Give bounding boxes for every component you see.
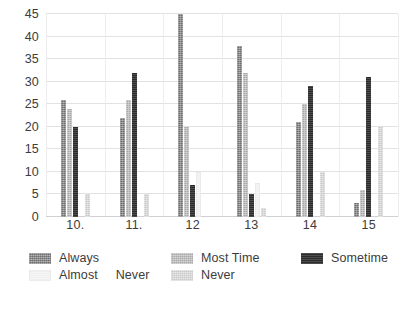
bar[interactable] [190,185,195,217]
bar[interactable] [261,208,266,217]
legend-row-2: Almost NeverNever [0,267,408,284]
x-axis: 10.11.12131415 [46,219,398,232]
legend-label: Most Time [201,252,260,265]
bar[interactable] [296,122,301,217]
legend-item[interactable]: Sometime [301,250,388,267]
legend-swatch-icon [29,270,51,281]
legend-row-1: AlwaysMost TimeSometime [0,250,408,267]
legend-swatch-icon [171,253,193,264]
bar[interactable] [132,73,137,217]
y-axis: 051015202530354045 [0,0,44,240]
bar[interactable] [61,100,66,217]
bar[interactable] [249,194,254,217]
plot-wrapper: 051015202530354045 10.11.12131415 [0,0,408,240]
bar[interactable] [73,127,78,217]
legend-item[interactable]: Most Time [171,250,301,267]
bar-groups [46,14,398,217]
y-axis-tick-label: 40 [25,30,39,43]
bar-group [46,14,105,217]
bar[interactable] [255,183,260,217]
bar[interactable] [237,46,242,217]
legend-swatch-icon [171,270,193,281]
bar[interactable] [196,172,201,217]
legend-item[interactable]: Never [171,267,301,284]
bar[interactable] [85,194,90,217]
x-axis-tick-label: 15 [339,219,398,232]
x-axis-tick-label: 12 [163,219,222,232]
legend-label: Always [59,252,99,265]
bar[interactable] [67,109,72,217]
bar-group [281,14,340,217]
x-axis-tick-label: 10. [46,219,105,232]
bar[interactable] [126,100,131,217]
x-axis-tick-label: 11. [105,219,164,232]
y-axis-tick-label: 15 [25,143,39,156]
legend-item[interactable]: Almost Never [29,267,171,284]
y-axis-tick-label: 35 [25,53,39,66]
bar[interactable] [354,203,359,217]
y-axis-tick-label: 25 [25,98,39,111]
legend-swatch-icon [301,253,323,264]
legend-label: Never [201,269,235,282]
y-axis-tick-label: 30 [25,75,39,88]
legend-label: Sometime [331,252,388,265]
bar-chart: 051015202530354045 10.11.12131415 Always… [0,0,408,314]
bar[interactable] [366,77,371,217]
x-axis-tick-label: 13 [222,219,281,232]
y-axis-tick-label: 20 [25,121,39,134]
bar[interactable] [243,73,248,217]
gridline-vertical [398,14,399,217]
plot-area [46,14,398,217]
y-axis-tick-label: 5 [32,188,39,201]
legend-label: Almost Never [59,269,150,282]
legend-swatch-icon [29,253,51,264]
y-axis-tick-label: 10 [25,166,39,179]
legend-item[interactable]: Always [29,250,171,267]
bar[interactable] [378,127,383,217]
y-axis-tick-label: 0 [32,211,39,224]
bar-group [105,14,164,217]
y-axis-tick-label: 45 [25,8,39,21]
bar[interactable] [360,190,365,217]
bar[interactable] [320,172,325,217]
bar[interactable] [308,86,313,217]
bar-group [222,14,281,217]
bar[interactable] [178,14,183,217]
bar-group [339,14,398,217]
bar[interactable] [120,118,125,217]
chart-legend: AlwaysMost TimeSometime Almost NeverNeve… [0,250,408,284]
bar[interactable] [144,194,149,217]
bar[interactable] [184,127,189,217]
bar[interactable] [302,104,307,217]
bar-group [163,14,222,217]
x-axis-tick-label: 14 [281,219,340,232]
